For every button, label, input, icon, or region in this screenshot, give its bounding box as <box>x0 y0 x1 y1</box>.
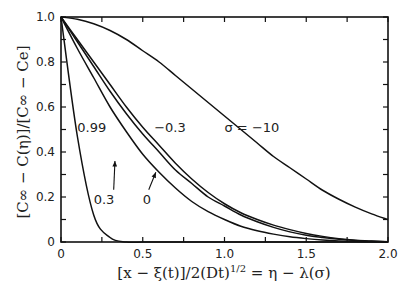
y-tick-label: 0.8 <box>36 55 55 69</box>
x-tick-label: 1.5 <box>297 247 316 261</box>
chart: 00.51.01.52.000.20.40.60.81.0 0.99−0.3σ … <box>0 0 407 292</box>
curve-label: −0.3 <box>154 120 186 135</box>
curve-label: σ = −10 <box>225 120 280 135</box>
x-tick-label: 2.0 <box>378 247 397 261</box>
y-tick-label: 0.4 <box>36 145 55 159</box>
plot-axes: 00.51.01.52.000.20.40.60.81.0 <box>36 10 398 261</box>
curve <box>61 17 388 220</box>
curve-label: 0.3 <box>94 192 115 207</box>
y-tick-label: 0.6 <box>36 100 55 114</box>
x-tick-label: 0 <box>57 247 65 261</box>
x-axis-title: [x − ξ(t)]/2(Dt)1/2 = η − λ(σ) <box>117 263 330 282</box>
annotations: 0.99−0.3σ = −100.30 <box>77 120 279 207</box>
curve-label: 0 <box>143 192 151 207</box>
arrowhead-icon <box>112 161 117 167</box>
arrowhead-icon <box>152 172 156 178</box>
x-tick-label: 1.0 <box>215 247 234 261</box>
y-tick-label: 1.0 <box>36 10 55 24</box>
y-tick-label: 0 <box>47 235 55 249</box>
x-tick-label: 0.5 <box>133 247 152 261</box>
y-axis-title: [C∞ − C(η)]/[C∞ − Ce] <box>14 45 32 218</box>
y-tick-label: 0.2 <box>36 190 55 204</box>
curve-label: 0.99 <box>77 120 106 135</box>
